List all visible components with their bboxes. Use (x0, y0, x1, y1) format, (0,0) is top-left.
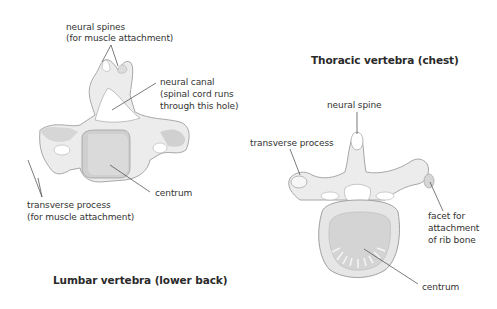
label-transverse-process: transverse process (27, 199, 111, 211)
lumbar-foramen-right (153, 143, 167, 153)
thoracic-centrum-face (329, 212, 391, 270)
label-transverse-thoracic: transverse process (250, 137, 334, 149)
lumbar-foramen-left (54, 145, 70, 155)
lumbar-centrum-face (88, 134, 128, 175)
label-neural-spines-note: (for muscle attachment) (66, 32, 173, 44)
label-facet-3: of rib bone (428, 234, 476, 246)
label-centrum-lumbar: centrum (155, 187, 192, 199)
title-thoracic-vertebra: Thoracic vertebra (chest) (311, 54, 459, 66)
label-neural-canal: neural canal (160, 76, 215, 88)
vertebrae-illustration (0, 0, 497, 309)
thoracic-transverse-left-tip (291, 176, 307, 188)
label-facet-2: attachment (428, 222, 479, 234)
title-lumbar-vertebra: Lumbar vertebra (lower back) (53, 274, 227, 286)
lumbar-neural-spine-right (118, 65, 127, 74)
thoracic-neural-spine (351, 132, 363, 150)
label-neural-spine-thoracic: neural spine (327, 99, 381, 111)
label-centrum-thoracic: centrum (422, 281, 459, 293)
label-neural-canal-note-1: (spinal cord runs (160, 88, 234, 100)
leader-transverse-thoracic (290, 149, 300, 175)
thoracic-articular-left (321, 192, 339, 200)
leader-rib-facet (430, 182, 443, 211)
lumbar-vertebra-drawing (28, 45, 189, 197)
leader-transverse-left (28, 160, 42, 197)
label-facet-1: facet for (428, 210, 465, 222)
thoracic-rib-facet (424, 174, 434, 188)
thoracic-articular-right (376, 192, 394, 200)
label-transverse-process-note: (for muscle attachment) (27, 211, 134, 223)
label-neural-canal-note-2: through this hole) (160, 100, 238, 112)
